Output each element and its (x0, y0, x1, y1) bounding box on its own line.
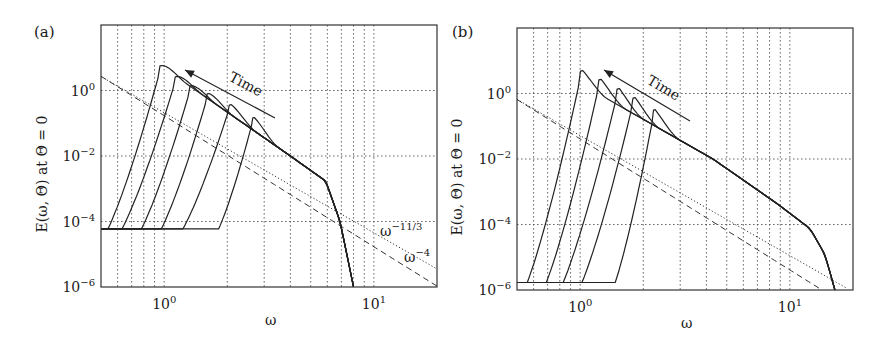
panel-label-a: (a) (34, 23, 55, 41)
x-axis-label: ω (681, 315, 692, 331)
x-tick-label: 100 (152, 294, 176, 312)
y-tick-label: 10−6 (62, 277, 95, 295)
spectrum-curve-t3 (517, 89, 835, 290)
arrowhead-icon (604, 70, 614, 78)
reference-line-omega-11-3 (517, 99, 847, 288)
reference-line-labels: ω−11/3 ω−4 (380, 221, 430, 265)
spectrum-curves (517, 71, 835, 290)
y-tick-label: 100 (71, 81, 95, 99)
spectrum-curve-t5 (101, 105, 354, 287)
x-tick-label: 100 (568, 297, 592, 315)
y-tick-label: 10−6 (478, 280, 511, 298)
reference-lines (517, 99, 847, 288)
x-tick-label: 101 (778, 297, 802, 315)
spectrum-curve-t2 (517, 79, 835, 290)
time-annotation: Time (185, 69, 275, 118)
x-axis-label: ω (265, 312, 276, 328)
y-axis-label: E(ω, Θ) at Θ = 0 (34, 116, 50, 233)
figure: (a) 10010110010−210−410−6 ω E(ω, Θ) at Θ… (0, 0, 888, 339)
panel-label-b: (b) (452, 23, 473, 41)
time-label: Time (644, 72, 683, 104)
tick-labels: 10010110010−210−410−6 (62, 81, 386, 313)
y-tick-label: 10−2 (62, 146, 95, 164)
reference-lines (101, 76, 437, 286)
spectrum-curve-t5 (517, 110, 835, 290)
grid-lines (517, 28, 853, 290)
spectrum-curve-t1 (517, 71, 835, 290)
label-omega-11-3: ω−11/3 (380, 221, 422, 239)
y-tick-label: 10−4 (62, 212, 95, 230)
panel-a: (a) 10010110010−210−410−6 ω E(ω, Θ) at Θ… (34, 23, 437, 328)
y-tick-label: 10−4 (478, 215, 511, 233)
y-tick-label: 10−2 (478, 149, 511, 167)
reference-line-omega-4 (101, 76, 437, 286)
y-tick-label: 100 (487, 84, 511, 102)
reference-line-omega-11-3 (101, 77, 437, 269)
time-annotation: Time (604, 70, 690, 121)
x-tick-label: 101 (362, 294, 386, 312)
y-axis-label: E(ω, Θ) at Θ = 0 (449, 119, 465, 236)
panel-b: (b) 10010110010−210−410−6 ω E(ω, Θ) at Θ… (449, 23, 853, 331)
